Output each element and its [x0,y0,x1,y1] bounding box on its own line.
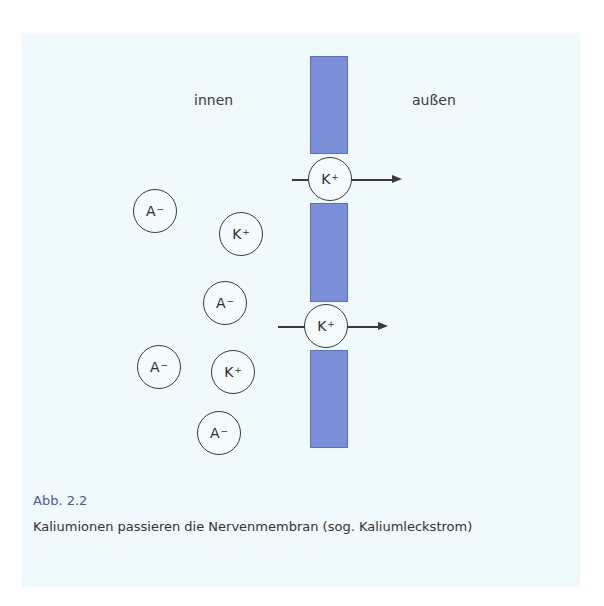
figure-caption-title: Abb. 2.2 [33,493,87,508]
anion-2: A− [203,281,247,325]
anion-4: A− [197,411,241,455]
potassium-ion-2: K+ [211,350,255,394]
figure-caption-text: Kaliumionen passieren die Nervenmembran … [33,516,553,537]
potassium-ion-1: K+ [219,212,263,256]
membrane-block-bottom [310,350,348,448]
inside-label: innen [194,92,233,108]
arrow-head-icon [392,175,402,183]
membrane-block-middle [310,203,348,302]
outside-label: außen [412,92,456,108]
anion-3: A− [137,345,181,389]
membrane-block-top [310,56,348,154]
arrow-head-icon [378,322,388,330]
channel-potassium-ion-1: K+ [308,157,352,201]
anion-1: A− [133,189,177,233]
channel-potassium-ion-2: K+ [304,304,348,348]
figure-panel [22,33,580,587]
